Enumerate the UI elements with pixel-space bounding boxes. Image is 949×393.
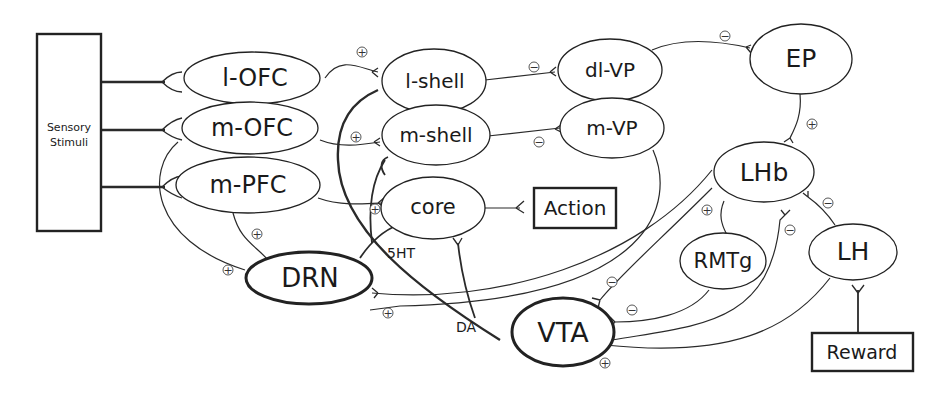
edge-mofc-mshell [320,140,380,145]
svg-text:VTA: VTA [537,317,589,348]
svg-text:−: − [627,304,636,317]
synapse-dlvp [550,67,556,76]
edge-lofc-lshell [325,65,378,78]
node-m-shell: m-shell [382,105,490,165]
synapse-da-core [453,238,462,245]
edge-ep-lhb [790,94,800,138]
node-drn: DRN [246,252,372,304]
synapse-action [516,201,524,213]
svg-text:Sensory: Sensory [47,121,92,134]
node-l-shell: l-shell [382,49,486,113]
node-m-ofc: m-OFC [182,102,318,154]
svg-text:m-shell: m-shell [399,123,472,147]
svg-text:l-shell: l-shell [405,69,464,93]
svg-text:Reward: Reward [827,341,898,363]
synapse-lshell [372,68,378,77]
svg-text:Action: Action [544,196,607,220]
svg-text:−: − [785,224,794,237]
svg-text:core: core [410,195,456,219]
svg-text:+: + [252,228,261,241]
svg-text:+: + [600,357,609,370]
node-lhb: LHb [714,142,814,202]
node-ep: EP [750,24,852,94]
svg-text:−: − [720,30,729,43]
svg-text:+: + [351,131,360,144]
sign-minus-dlvp-ep: − [720,30,730,43]
svg-text:dl-VP: dl-VP [585,58,635,82]
svg-text:m-OFC: m-OFC [211,114,293,142]
sign-minus-lhb-vta: − [607,276,617,289]
sign-plus-lh-vta: + [600,357,610,370]
node-reward: Reward [812,333,913,371]
sign-plus-mpfc-core: + [370,203,380,216]
svg-text:m-PFC: m-PFC [209,171,286,199]
node-m-vp: m-VP [560,98,664,158]
sign-plus-mofc-drn: + [223,264,233,277]
synapse-lh-lhb [803,191,808,197]
svg-text:+: + [223,264,232,277]
edge-mpfc-drn [233,213,268,260]
edge-lshell-dlvp [485,72,555,80]
svg-text:l-OFC: l-OFC [222,64,287,92]
sign-plus-ep-lhb: + [807,118,817,131]
svg-text:−: − [529,61,538,74]
edge-dlvp-ep [652,42,750,51]
sign-minus-lshell-dlvp: − [529,61,539,74]
node-core: core [381,177,485,239]
svg-text:EP: EP [786,44,817,73]
svg-text:+: + [357,46,366,59]
sign-plus-lofc-lshell: + [357,46,367,59]
edge-label-5ht: 5HT [387,245,415,261]
svg-text:+: + [370,203,379,216]
sign-minus-mshell-mvp: − [534,136,544,149]
svg-text:RMTg: RMTg [694,249,753,273]
edge-lhb-rmtg [721,201,726,233]
edge-vta-core-da [458,243,475,318]
sign-plus-mpfc-drn: + [252,228,262,241]
sign-minus-rmtg-vta: − [627,304,637,317]
sign-plus-mofc-mshell: + [351,131,361,144]
svg-text:DRN: DRN [281,263,339,293]
node-l-ofc: l-OFC [184,52,320,104]
sign-plus-vta-drn: + [383,307,393,320]
svg-text:−: − [534,136,543,149]
svg-text:+: + [383,307,392,320]
sign-plus-lhb-rmtg: + [702,204,712,217]
edge-label-da: DA [456,319,477,335]
node-m-pfc: m-PFC [176,157,320,213]
sign-minus-lh-lhb: − [823,197,833,210]
svg-text:LH: LH [837,237,870,266]
synapse-vta-lhb [781,210,790,215]
node-sensory-stimuli: Sensory Stimuli [37,34,101,231]
node-lh: LH [809,224,897,280]
neural-circuit-diagram: + + + + + − − − + + − − − − + + 5HT DA S… [0,0,949,393]
svg-text:+: + [807,118,816,131]
svg-text:m-VP: m-VP [586,116,637,140]
sign-minus-vta-lhb: − [785,224,795,237]
node-vta: VTA [512,298,614,366]
svg-text:−: − [823,197,832,210]
node-dl-vp: dl-VP [558,39,662,101]
node-rmtg: RMTg [680,233,766,289]
svg-text:−: − [607,276,616,289]
svg-text:LHb: LHb [740,158,789,187]
edge-mshell-mvp [488,128,560,136]
svg-text:Stimuli: Stimuli [50,136,88,149]
svg-text:+: + [702,204,711,217]
synapse-lhb [784,138,793,143]
node-action: Action [534,188,616,228]
synapse-ep [746,45,751,53]
edge-vta-mshell-da [382,157,388,175]
